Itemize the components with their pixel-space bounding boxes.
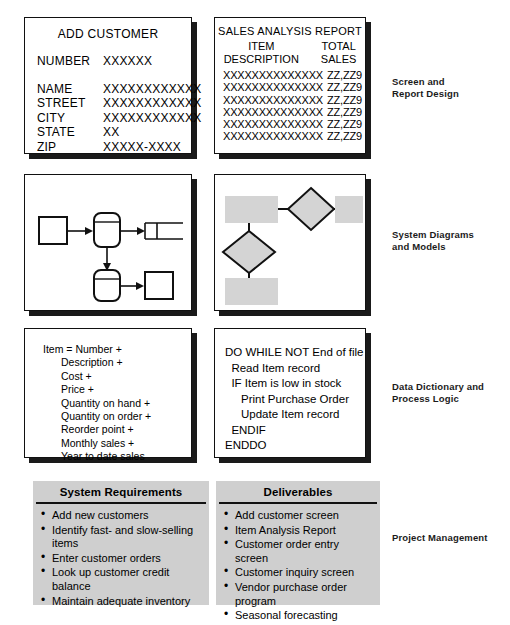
list-item: Maintain adequate inventory <box>41 595 203 609</box>
field-value: XXXXXXXXXXXX <box>103 96 201 111</box>
column-header-line1: ITEM <box>224 40 299 53</box>
field-label: STREET <box>37 96 103 111</box>
process-logic-line: IF Item is low in stock <box>225 376 365 392</box>
list-item: Add customer screen <box>224 509 374 523</box>
report-design-title: SALES ANALYSIS REPORT <box>215 25 365 37</box>
field-value: XXXXXXXXXXXX <box>103 82 201 97</box>
process-logic-line: ENDIF <box>225 423 365 439</box>
flow-arrow-head <box>85 227 93 235</box>
field-label: ZIP <box>37 140 103 155</box>
list-item: Enter customer orders <box>41 552 203 566</box>
screen-design-field-row: STATE XX <box>37 125 191 140</box>
column-header-total-sales: TOTAL SALES <box>321 40 356 65</box>
stage-label-data-dictionary-process-logic: Data Dictionary and Process Logic <box>392 381 484 405</box>
cell-description: XXXXXXXXXXXXXX <box>223 130 327 142</box>
process-rounded-bottom <box>94 270 120 301</box>
data-flow-diagram-svg <box>25 175 190 309</box>
stage-label-line1: System Diagrams <box>392 229 474 241</box>
report-design-column-headers: ITEM DESCRIPTION TOTAL SALES <box>215 40 365 65</box>
data-dictionary-line: Description + <box>25 356 191 369</box>
list-item: Seasonal forecasting <box>224 609 374 623</box>
cell-total-sales: ZZ,ZZ9 <box>327 69 362 81</box>
data-dictionary-list: Item = Number + Description + Cost + Pri… <box>25 329 191 464</box>
system-requirements-list: Add new customers Identify fast- and slo… <box>33 509 209 615</box>
report-design-rows: XXXXXXXXXXXXXX ZZ,ZZ9 XXXXXXXXXXXXXX ZZ,… <box>215 69 365 142</box>
data-dictionary-line: Cost + <box>25 370 191 383</box>
column-header-item-description: ITEM DESCRIPTION <box>224 40 299 65</box>
screen-design-fields: NAME XXXXXXXXXXXX STREET XXXXXXXXXXXX CI… <box>37 82 191 155</box>
stage-label-line2: Report Design <box>392 88 459 100</box>
table-row: XXXXXXXXXXXXXX ZZ,ZZ9 <box>223 106 365 118</box>
data-dictionary-panel: Item = Number + Description + Cost + Pri… <box>24 328 192 458</box>
table-row: XXXXXXXXXXXXXX ZZ,ZZ9 <box>223 94 365 106</box>
table-row: XXXXXXXXXXXXXX ZZ,ZZ9 <box>223 118 365 130</box>
list-item: Identify fast- and slow-selling items <box>41 524 203 551</box>
list-item: Vendor purchase order program <box>224 581 374 608</box>
screen-design-number-value: XXXXXX <box>103 54 152 69</box>
deliverables-list: Add customer screen Item Analysis Report… <box>216 509 380 625</box>
stage-label-line2: Process Logic <box>392 393 484 405</box>
process-logic-line: Print Purchase Order <box>225 392 365 408</box>
data-dictionary-line: Year to date sales <box>25 450 191 463</box>
data-flow-diagram-panel <box>24 174 192 311</box>
entity-box-top-left <box>225 196 278 223</box>
screen-design-field-row: STREET XXXXXXXXXXXX <box>37 96 191 111</box>
process-logic-list: DO WHILE NOT End of file Read Item recor… <box>215 329 365 454</box>
entity-box-top-right <box>335 196 363 223</box>
data-store-open-rect <box>145 223 183 239</box>
flow-arrow-head <box>137 227 145 235</box>
field-label: NAME <box>37 82 103 97</box>
relationship-diamond-top <box>288 188 334 230</box>
system-requirements-panel: System Requirements Add new customers Id… <box>33 481 209 605</box>
report-design-panel: SALES ANALYSIS REPORT ITEM DESCRIPTION T… <box>214 17 366 154</box>
process-logic-line: Update Item record <box>225 407 365 423</box>
list-item: Customer order entry screen <box>224 538 374 565</box>
cell-total-sales: ZZ,ZZ9 <box>327 94 362 106</box>
list-item: Item Analysis Report <box>224 524 374 538</box>
deliverables-title: Deliverables <box>216 481 380 502</box>
field-label: CITY <box>37 111 103 126</box>
data-dictionary-line: Quantity on order + <box>25 410 191 423</box>
process-logic-panel: DO WHILE NOT End of file Read Item recor… <box>214 328 366 458</box>
deliverables-panel: Deliverables Add customer screen Item An… <box>216 481 380 605</box>
list-item: Add new customers <box>41 509 203 523</box>
screen-design-number-label: NUMBER <box>37 54 103 69</box>
cell-total-sales: ZZ,ZZ9 <box>327 106 362 118</box>
screen-design-field-row: CITY XXXXXXXXXXXX <box>37 111 191 126</box>
stage-label-project-management: Project Management <box>392 532 488 544</box>
column-header-line2: DESCRIPTION <box>224 53 299 66</box>
model-diagram-svg <box>215 175 364 309</box>
data-dictionary-line: Monthly sales + <box>25 437 191 450</box>
field-value: XX <box>103 125 119 140</box>
model-diagram-panel <box>214 174 366 311</box>
screen-design-panel: ADD CUSTOMER NUMBER XXXXXX NAME XXXXXXXX… <box>24 17 192 154</box>
cell-total-sales: ZZ,ZZ9 <box>327 81 362 93</box>
field-value: XXXXXXXXXXXX <box>103 111 201 126</box>
stage-label-line2: and Models <box>392 241 474 253</box>
cell-total-sales: ZZ,ZZ9 <box>327 118 362 130</box>
table-row: XXXXXXXXXXXXXX ZZ,ZZ9 <box>223 69 365 81</box>
data-dictionary-line: Quantity on hand + <box>25 397 191 410</box>
field-label: STATE <box>37 125 103 140</box>
stage-label-screen-report-design: Screen and Report Design <box>392 76 459 100</box>
screen-design-title: ADD CUSTOMER <box>25 27 191 41</box>
table-row: XXXXXXXXXXXXXX ZZ,ZZ9 <box>223 130 365 142</box>
external-entity-square-2 <box>145 272 173 299</box>
table-row: XXXXXXXXXXXXXX ZZ,ZZ9 <box>223 81 365 93</box>
screen-design-number-row: NUMBER XXXXXX <box>37 54 191 69</box>
flow-arrow-head <box>136 282 144 290</box>
stage-label-system-diagrams-models: System Diagrams and Models <box>392 229 474 253</box>
stage-label-line1: Project Management <box>392 532 488 544</box>
screen-design-field-row: ZIP XXXXX-XXXX <box>37 140 191 155</box>
process-logic-line: ENDDO <box>225 438 365 454</box>
data-dictionary-line: Reorder point + <box>25 423 191 436</box>
process-logic-line: Read Item record <box>225 361 365 377</box>
title-divider <box>219 502 377 504</box>
cell-description: XXXXXXXXXXXXXX <box>223 81 327 93</box>
process-rounded-top <box>94 213 120 247</box>
system-requirements-title: System Requirements <box>33 481 209 502</box>
external-entity-square <box>39 217 67 244</box>
title-divider <box>36 502 206 504</box>
process-logic-line: DO WHILE NOT End of file <box>225 345 365 361</box>
